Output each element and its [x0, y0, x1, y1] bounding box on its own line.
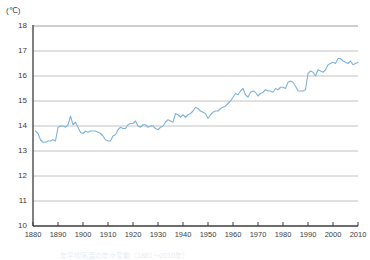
- y-tick-label-16: 16: [7, 71, 27, 80]
- x-tick-label-1890: 1890: [45, 230, 71, 239]
- x-tick-label-1910: 1910: [95, 230, 121, 239]
- y-tick-label-13: 13: [7, 146, 27, 155]
- x-tick-label-1970: 1970: [245, 230, 271, 239]
- chart-caption: 年平均気温の年々変動（1881～2010年）: [60, 250, 315, 260]
- x-tick-label-1880: 1880: [20, 230, 46, 239]
- x-tick-label-2010: 2010: [345, 230, 370, 239]
- x-tick-label-1900: 1900: [70, 230, 96, 239]
- y-tick-label-17: 17: [7, 46, 27, 55]
- x-tick-label-1950: 1950: [195, 230, 221, 239]
- temperature-line-chart: (℃) 181716151413121110 18801890190019101…: [0, 0, 370, 260]
- x-tick-label-2000: 2000: [320, 230, 346, 239]
- y-tick-label-11: 11: [7, 196, 27, 205]
- data-line-annual-mean-temperature: [36, 59, 359, 143]
- y-tick-label-18: 18: [7, 21, 27, 30]
- x-tick-label-1940: 1940: [170, 230, 196, 239]
- x-tick-label-1930: 1930: [145, 230, 171, 239]
- x-tick-label-1980: 1980: [270, 230, 296, 239]
- x-tick-label-1990: 1990: [295, 230, 321, 239]
- y-tick-label-14: 14: [7, 121, 27, 130]
- x-tick-label-1920: 1920: [120, 230, 146, 239]
- y-tick-label-10: 10: [7, 221, 27, 230]
- plot-area: [0, 0, 370, 260]
- y-tick-label-12: 12: [7, 171, 27, 180]
- x-tick-label-1960: 1960: [220, 230, 246, 239]
- y-tick-label-15: 15: [7, 96, 27, 105]
